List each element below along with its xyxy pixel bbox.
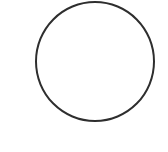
canvas: [0, 0, 168, 152]
circle-outline: [35, 1, 155, 122]
